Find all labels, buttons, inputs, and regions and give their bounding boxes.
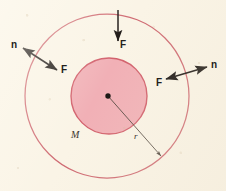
label-radius-r: r <box>134 132 138 141</box>
label-force-right: F <box>156 78 162 88</box>
label-force-top: F <box>120 40 126 50</box>
label-normal-right: n <box>211 60 217 70</box>
diagram-canvas <box>0 0 226 191</box>
label-mass-M: M <box>71 130 79 140</box>
physics-figure-sphere-gravitation: F n F n F M r <box>0 0 226 191</box>
force-normal-arrow-left <box>23 48 57 70</box>
label-force-left: F <box>61 65 67 75</box>
label-normal-left: n <box>11 40 17 50</box>
center-point-dot <box>105 93 110 98</box>
